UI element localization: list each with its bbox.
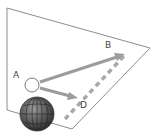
label-b: B (105, 40, 111, 50)
point-a (25, 78, 39, 92)
diagram-canvas: A B D (0, 0, 151, 133)
globe-icon (20, 97, 54, 131)
label-d: D (80, 100, 87, 110)
label-a: A (13, 70, 20, 80)
